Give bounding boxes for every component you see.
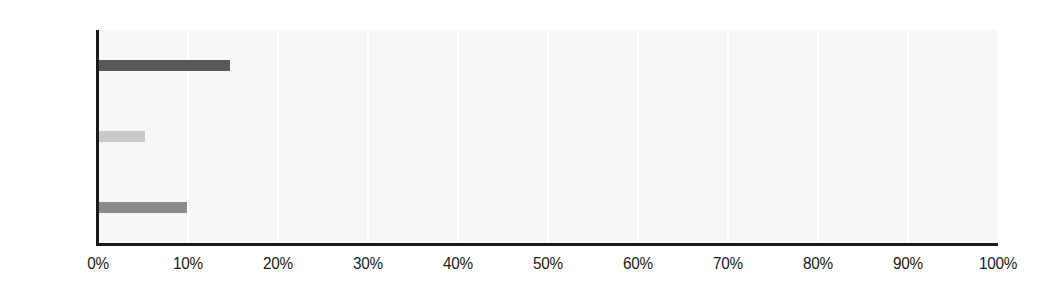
bar-all	[98, 202, 187, 213]
x-tick-70%: 70%	[692, 254, 764, 274]
gridline-60%	[637, 30, 639, 243]
gridline-40%	[457, 30, 459, 243]
x-tick-90%: 90%	[872, 254, 944, 274]
x-tick-30%: 30%	[332, 254, 404, 274]
x-tick-40%: 40%	[422, 254, 494, 274]
bar-men	[98, 60, 230, 71]
bar-women	[98, 131, 145, 142]
x-axis-line	[96, 243, 998, 246]
bar-chart: MenWomenAll 0%10%20%30%40%50%60%70%80%90…	[0, 0, 1040, 297]
gridline-80%	[817, 30, 819, 243]
x-tick-0%: 0%	[62, 254, 134, 274]
gridline-70%	[727, 30, 729, 243]
y-axis-line	[96, 30, 99, 244]
x-tick-10%: 10%	[152, 254, 224, 274]
x-tick-20%: 20%	[242, 254, 314, 274]
x-tick-50%: 50%	[512, 254, 584, 274]
x-tick-100%: 100%	[962, 254, 1034, 274]
plot-area	[98, 30, 998, 243]
x-tick-80%: 80%	[782, 254, 854, 274]
gridline-50%	[547, 30, 549, 243]
gridline-30%	[367, 30, 369, 243]
x-tick-60%: 60%	[602, 254, 674, 274]
gridline-100%	[997, 30, 999, 243]
gridline-20%	[277, 30, 279, 243]
gridline-90%	[907, 30, 909, 243]
